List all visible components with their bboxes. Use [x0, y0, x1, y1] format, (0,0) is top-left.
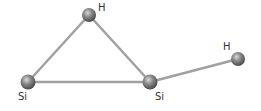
bonds — [28, 15, 238, 82]
atoms — [21, 8, 246, 90]
label-si1: Si — [18, 92, 27, 102]
atom-si2 — [143, 75, 158, 90]
bond-h1-si1 — [28, 15, 89, 82]
atom-h1 — [82, 8, 96, 22]
molecule-diagram — [0, 0, 261, 111]
atom-h2 — [231, 52, 245, 66]
bond-h1-si2 — [89, 15, 150, 82]
label-si2: Si — [155, 92, 164, 102]
atom-si1 — [21, 75, 36, 90]
bond-si2-h2 — [150, 59, 238, 82]
label-h1: H — [98, 3, 106, 13]
label-h2: H — [223, 42, 231, 52]
